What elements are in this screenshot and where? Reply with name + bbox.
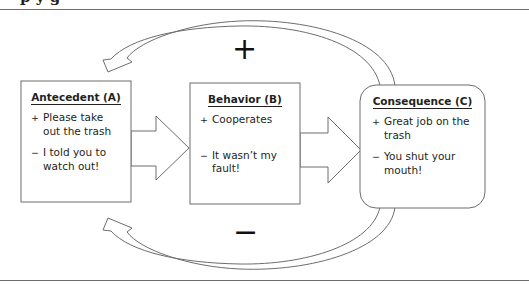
minus-sign: − — [372, 150, 384, 177]
arrow-a-to-b-icon — [131, 116, 189, 180]
plus-sign: + — [372, 115, 384, 142]
plus-sign: + — [31, 111, 43, 138]
antecedent-box: Antecedent (A) + Please take out the tra… — [21, 81, 131, 202]
minus-sign: − — [31, 146, 43, 173]
consequence-positive-item: + Great job on the trash — [372, 115, 473, 142]
antecedent-negative-item: − I told you to watch out! — [31, 146, 121, 173]
consequence-title: Consequence (C) — [372, 95, 473, 107]
behavior-negative-item: − It wasn’t my fault! — [200, 149, 290, 176]
behavior-box: Behavior (B) + Cooperates − It wasn’t my… — [190, 83, 300, 204]
arrow-b-to-c-icon — [300, 117, 361, 183]
antecedent-title: Antecedent (A) — [31, 91, 121, 103]
negative-loop-label: − — [233, 217, 258, 247]
consequence-negative-item: − You shut your mouth! — [372, 150, 473, 177]
positive-loop-label: + — [232, 34, 257, 64]
behavior-title: Behavior (B) — [200, 93, 290, 105]
plus-sign: + — [200, 113, 212, 127]
antecedent-positive-item: + Please take out the trash — [31, 111, 121, 138]
minus-sign: − — [200, 149, 212, 176]
behavior-positive-item: + Cooperates — [200, 113, 290, 127]
consequence-box: Consequence (C) + Great job on the trash… — [360, 85, 485, 208]
